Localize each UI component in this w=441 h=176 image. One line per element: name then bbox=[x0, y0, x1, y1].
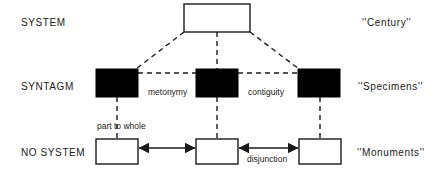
nosystem-box-right[interactable] bbox=[299, 139, 341, 164]
syntagm-box-left[interactable] bbox=[96, 69, 138, 97]
dashed-connectors-system-to-syntagm bbox=[136, 32, 299, 69]
syntagm-box-right[interactable] bbox=[298, 69, 340, 97]
nosystem-box-left[interactable] bbox=[96, 139, 138, 164]
nosystem-box-mid[interactable] bbox=[196, 139, 238, 164]
diagram-canvas: SYSTEM SYNTAGM NO SYSTEM ''Century'' ''S… bbox=[0, 0, 441, 176]
row-label-century: ''Century'' bbox=[362, 17, 411, 29]
edge-system-to-syntagm-left bbox=[136, 32, 184, 69]
row-label-syntagm: SYNTAGM bbox=[21, 81, 74, 93]
system-box[interactable] bbox=[184, 4, 250, 32]
row-label-specimens: ''Specimens'' bbox=[358, 81, 423, 93]
row-label-system: SYSTEM bbox=[21, 17, 66, 29]
syntagm-box-mid[interactable] bbox=[196, 69, 238, 97]
row-label-no-system: NO SYSTEM bbox=[21, 147, 85, 159]
row-label-monuments: ''Monuments'' bbox=[357, 147, 425, 159]
edge-label-contiguity: contiguity bbox=[247, 87, 285, 97]
dashed-connectors-syntagm-to-nosystem bbox=[117, 97, 320, 139]
edge-system-to-syntagm-right bbox=[250, 32, 299, 69]
edge-label-part-to-whole: part to whole bbox=[96, 121, 147, 131]
edge-label-disjunction: disjunction bbox=[246, 154, 288, 164]
edge-label-metonymy: metonymy bbox=[147, 87, 188, 97]
